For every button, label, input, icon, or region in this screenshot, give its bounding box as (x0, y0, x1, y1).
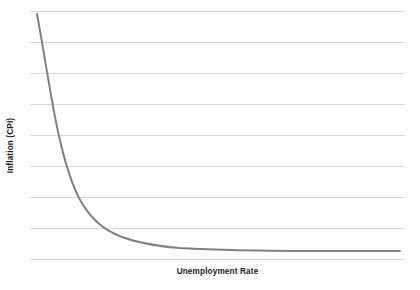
chart-canvas (0, 0, 420, 290)
gridlines (30, 12, 405, 260)
y-axis-title-label: Inflation (CPI) (7, 117, 16, 172)
data-series (37, 14, 400, 251)
x-axis-title: Unemployment Rate (30, 267, 405, 276)
series-line (37, 14, 400, 251)
y-axis-title: Inflation (CPI) (0, 0, 22, 290)
phillips-curve-chart: Inflation (CPI) Unemployment Rate (0, 0, 420, 290)
